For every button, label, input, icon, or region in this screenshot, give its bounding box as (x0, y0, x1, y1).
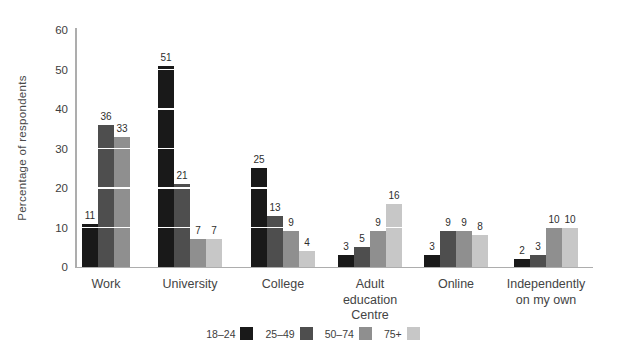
gridline (77, 69, 592, 71)
bar-75+-College (299, 251, 315, 267)
bar-18–24-Independently on my own (514, 259, 530, 267)
bar-value-label: 51 (146, 52, 186, 63)
bar-75+-Adult education Centre (386, 204, 402, 267)
legend-item-50–74: 50–74 (325, 327, 372, 340)
gridline (77, 227, 592, 229)
bar-18–24-University (158, 66, 174, 267)
bar-value-label: 8 (460, 221, 500, 232)
bar-75+-Online (472, 235, 488, 267)
bar-value-label: 13 (255, 202, 295, 213)
plot-area: 115125332362113593337999107416810 (0, 0, 626, 267)
bar-value-label: 25 (239, 154, 279, 165)
bar-value-label: 4 (287, 237, 327, 248)
bar-value-label: 11 (70, 210, 110, 221)
bar-50–74-Online (456, 231, 472, 267)
legend: 18–2425–4950–7475+ (0, 327, 626, 340)
bar-18–24-College (251, 168, 267, 267)
bar-75+-University (206, 239, 222, 267)
gridline (77, 187, 592, 189)
bar-value-label: 7 (194, 225, 234, 236)
bar-50–74-University (190, 239, 206, 267)
bar-value-label: 36 (86, 111, 126, 122)
category-label-Independently on my own: Independently on my own (486, 277, 606, 308)
bar-25–49-Independently on my own (530, 255, 546, 267)
legend-item-25–49: 25–49 (265, 327, 312, 340)
bar-18–24-Adult education Centre (338, 255, 354, 267)
legend-swatch (240, 327, 253, 340)
bar-value-label: 3 (518, 241, 558, 252)
legend-swatch (300, 327, 313, 340)
bar-25–49-Work (98, 125, 114, 267)
legend-item-75+: 75+ (384, 327, 420, 340)
legend-label: 18–24 (206, 328, 235, 340)
bar-value-label: 9 (271, 217, 311, 228)
legend-label: 75+ (384, 328, 402, 340)
bar-value-label: 10 (550, 214, 590, 225)
legend-label: 50–74 (325, 328, 354, 340)
bar-18–24-Online (424, 255, 440, 267)
bar-value-label: 33 (102, 123, 142, 134)
bar-75+-Independently on my own (562, 228, 578, 268)
gridline (77, 108, 592, 110)
bar-50–74-Work (114, 137, 130, 267)
legend-swatch (359, 327, 372, 340)
bar-value-label: 9 (358, 217, 398, 228)
bar-value-label: 5 (342, 233, 382, 244)
bar-value-label: 21 (162, 170, 202, 181)
gridline (77, 148, 592, 150)
bar-value-label: 3 (412, 241, 452, 252)
legend-item-18–24: 18–24 (206, 327, 253, 340)
legend-swatch (407, 327, 420, 340)
bar-chart: Percentage of respondents 0102030405060 … (0, 0, 626, 364)
bar-value-label: 16 (374, 190, 414, 201)
bar-18–24-Work (82, 224, 98, 267)
legend-label: 25–49 (265, 328, 294, 340)
